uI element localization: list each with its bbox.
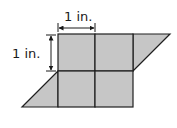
right-triangle-face	[133, 34, 170, 71]
height-label: 1 in.	[12, 46, 40, 61]
prism-net-diagram: 1 in. 1 in.	[0, 0, 177, 128]
square-top-right	[95, 34, 133, 71]
square-bottom-left	[58, 71, 95, 107]
square-top-left	[58, 34, 95, 71]
left-triangle-face	[22, 71, 58, 107]
width-label: 1 in.	[64, 9, 92, 24]
square-bottom-right	[95, 71, 133, 107]
